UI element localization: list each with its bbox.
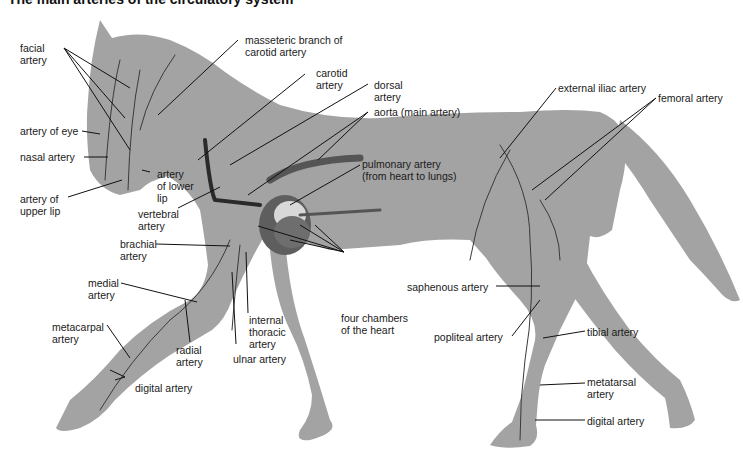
label-femoral-artery: femoral artery — [658, 92, 723, 104]
label-ulnar-artery: ulnar artery — [233, 353, 286, 365]
label-metacarpal-artery: metacarpalartery — [52, 321, 104, 345]
label-popliteal-artery: popliteal artery — [434, 331, 503, 343]
label-facial-artery: facialartery — [20, 42, 47, 66]
label-metatarsal-artery: metatarsalartery — [587, 376, 636, 400]
label-dorsal-artery: dorsalartery — [374, 79, 403, 103]
label-pulmonary-artery: pulmonary artery(from heart to lungs) — [362, 158, 457, 182]
label-nasal-artery: nasal artery — [20, 151, 75, 163]
label-vertebral-artery: vertebralartery — [138, 208, 179, 232]
label-aorta: aorta (main artery) — [374, 106, 460, 118]
label-tibial-artery: tibial artery — [587, 326, 638, 338]
label-saphenous-artery: saphenous artery — [407, 281, 488, 293]
label-medial-artery: medialartery — [88, 277, 119, 301]
label-brachial-artery: brachialartery — [120, 238, 157, 262]
label-four-chambers: four chambersof the heart — [341, 312, 408, 336]
label-internal-thoracic-artery: internalthoracicartery — [249, 314, 286, 350]
label-artery-of-lower-lip: arteryof lowerlip — [157, 168, 194, 204]
label-external-iliac-artery: external iliac artery — [558, 82, 646, 94]
label-carotid-artery: carotidartery — [316, 67, 348, 91]
label-artery-of-upper-lip: artery ofupper lip — [20, 193, 60, 217]
label-masseteric-branch: masseteric branch ofcarotid artery — [245, 34, 342, 58]
label-radial-artery: radialartery — [176, 344, 203, 368]
label-artery-of-eye: artery of eye — [20, 125, 78, 137]
label-digital-artery-front: digital artery — [135, 382, 192, 394]
heart — [259, 195, 311, 255]
label-digital-artery-hind: digital artery — [587, 415, 644, 427]
